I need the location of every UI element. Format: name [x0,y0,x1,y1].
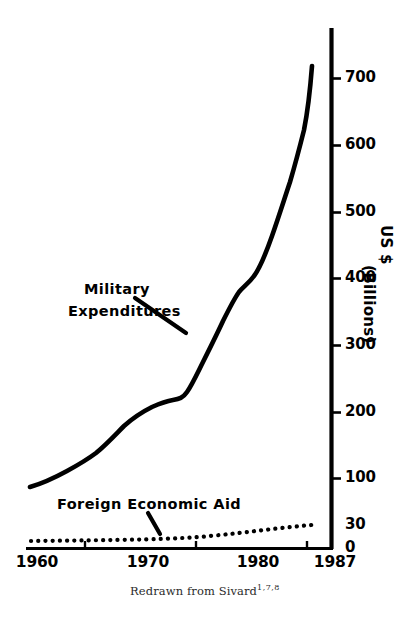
x-tick-label-1987: 1987 [314,553,356,571]
figure-caption: Redrawn from Sivard1,7,8 [0,583,410,598]
y-tick-label-600: 600 [345,135,376,153]
x-tick-label-1970: 1970 [127,553,169,571]
y-tick-label-30: 30 [345,515,365,533]
y-tick-label-700: 700 [345,68,376,86]
y-axis-title-units: (Billions) [360,265,378,344]
x-tick-label-1980: 1980 [237,553,279,571]
series-label-military-expenditures-line1: Military [84,279,150,300]
y-tick-label-100: 100 [345,468,376,486]
y-tick-label-200: 200 [345,402,376,420]
caption-references: 1,7,8 [257,583,280,592]
series-label-foreign-economic-aid: Foreign Economic Aid [57,494,241,515]
y-axis-title-currency: US $ [377,225,395,265]
aid-annotation-leader-line [148,513,160,534]
series-line-military-expenditures [30,66,312,487]
x-tick-label-1960: 1960 [16,553,58,571]
y-tick-label-500: 500 [345,202,376,220]
series-label-military-expenditures-line2: Expenditures [68,301,181,322]
series-line-foreign-economic-aid [31,524,318,541]
chart-figure: 700 600 500 400 300 200 100 30 0 US $ (B… [0,0,410,623]
caption-text: Redrawn from Sivard [130,584,257,598]
